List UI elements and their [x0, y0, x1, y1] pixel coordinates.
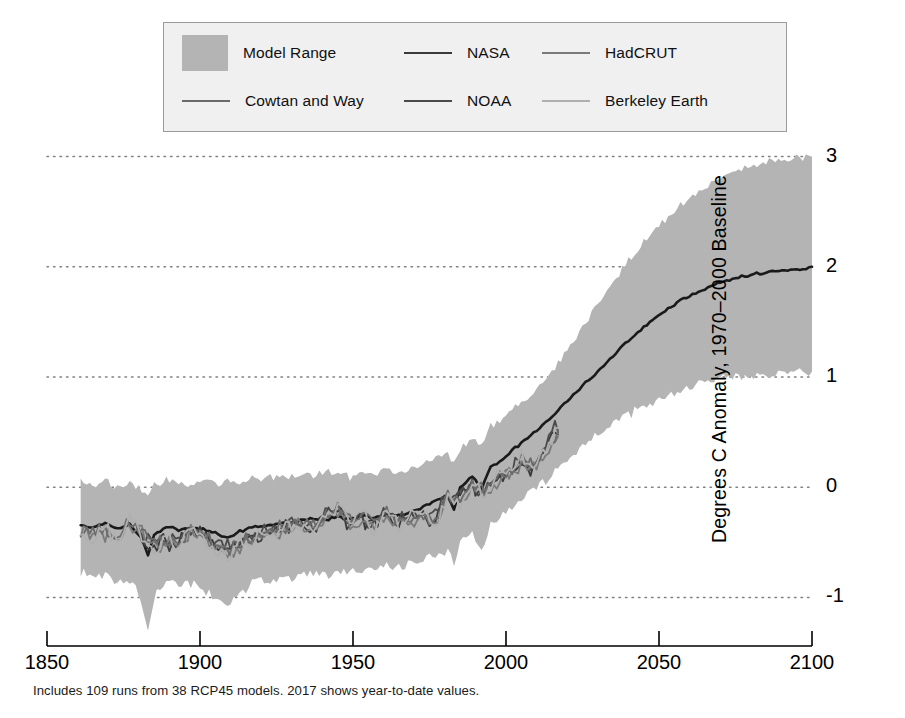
legend-line-icon — [404, 52, 452, 54]
x-axis-tick-label-2100: 2100 — [790, 651, 835, 674]
legend-line-icon — [404, 100, 452, 102]
legend-line-icon — [542, 52, 590, 54]
x-axis-tick-label-1850: 1850 — [25, 651, 70, 674]
volcanic-excursion-1883 — [136, 582, 157, 631]
legend-line-icon — [182, 100, 230, 102]
legend-item-cowtan-and-way[interactable]: Cowtan and Way — [182, 92, 404, 110]
chart-canvas — [47, 140, 812, 636]
y-axis-tick-label--1: -1 — [826, 584, 844, 607]
legend-label: NOAA — [467, 92, 511, 110]
plot-area — [47, 140, 812, 636]
y-axis-tick-label-1: 1 — [826, 364, 837, 387]
legend-label: Berkeley Earth — [605, 92, 708, 110]
y-axis-tick-label-3: 3 — [826, 144, 837, 167]
legend-line-icon — [542, 100, 590, 102]
model-range-area — [81, 154, 812, 629]
x-axis-tick-label-2000: 2000 — [484, 651, 529, 674]
legend-item-noaa[interactable]: NOAA — [404, 92, 542, 110]
x-axis-tick-label-1950: 1950 — [331, 651, 376, 674]
legend-label: Cowtan and Way — [245, 92, 364, 110]
model-range-band — [81, 154, 812, 630]
legend-item-model-range[interactable]: Model Range — [182, 35, 404, 71]
legend-label: HadCRUT — [605, 44, 677, 62]
chart-caption: Includes 109 runs from 38 RCP45 models. … — [33, 683, 479, 698]
y-axis-title: Degrees C Anomaly, 1970–2000 Baseline — [707, 175, 730, 543]
x-axis-tick-label-1900: 1900 — [178, 651, 223, 674]
y-axis-tick-label-0: 0 — [826, 474, 837, 497]
legend-label: NASA — [467, 44, 510, 62]
legend-item-hadcrut[interactable]: HadCRUT — [542, 44, 776, 62]
legend-item-berkeley-earth[interactable]: Berkeley Earth — [542, 92, 776, 110]
legend-item-nasa[interactable]: NASA — [404, 44, 542, 62]
legend-label: Model Range — [243, 44, 336, 62]
chart-legend: Model Range NASA HadCRUT Cowtan and Way … — [163, 22, 787, 132]
legend-swatch-icon — [182, 35, 228, 71]
temperature-anomaly-figure: Model Range NASA HadCRUT Cowtan and Way … — [0, 0, 905, 718]
x-axis-tick-label-2050: 2050 — [637, 651, 682, 674]
y-axis-tick-label-2: 2 — [826, 254, 837, 277]
